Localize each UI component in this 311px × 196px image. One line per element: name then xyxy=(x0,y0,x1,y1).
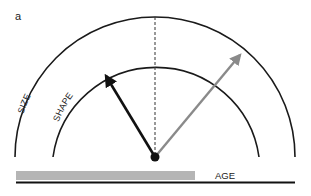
shape-arc xyxy=(53,67,259,157)
gray-arrow xyxy=(155,55,240,157)
age-progress-bar xyxy=(16,171,195,180)
size-label: SIZE xyxy=(16,92,33,115)
origin-point xyxy=(151,153,160,162)
shape-label: SHAPE xyxy=(51,91,75,123)
diagram-canvas: a SIZE SHAPE AGE xyxy=(0,0,311,196)
panel-label: a xyxy=(15,10,22,22)
black-arrow xyxy=(106,76,155,157)
age-label: AGE xyxy=(215,170,235,181)
